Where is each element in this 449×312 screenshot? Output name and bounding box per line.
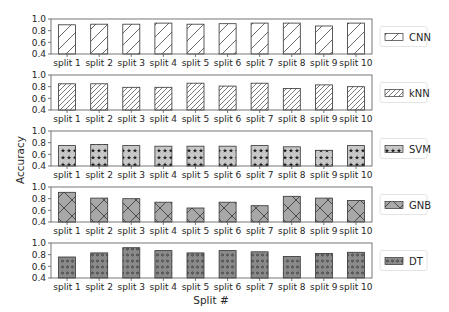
x-tick-label: split 6 [214, 226, 242, 236]
legend-label: CNN [409, 32, 431, 43]
legend-label: DT [409, 256, 424, 267]
y-tick-label: 0.8 [32, 194, 47, 204]
bar-dt-10 [347, 252, 364, 278]
bar-cnn-6 [219, 24, 236, 54]
bar-cnn-1 [59, 25, 76, 54]
legend-swatch [385, 146, 403, 153]
bar-cnn-10 [347, 23, 364, 54]
bar-cnn-4 [155, 23, 172, 54]
x-tick-label: split 5 [182, 282, 210, 292]
bar-knn-4 [155, 87, 172, 110]
x-tick-label: split 10 [339, 282, 373, 292]
bar-svm-3 [123, 146, 140, 166]
x-tick-label: split 6 [214, 170, 242, 180]
y-tick-label: 0.8 [32, 26, 47, 36]
x-tick-label: split 3 [117, 226, 145, 236]
subplot-knn: 0.40.60.81.0split 1split 2split 3split 4… [32, 70, 430, 124]
x-tick-label: split 10 [339, 114, 373, 124]
bar-svm-9 [315, 150, 332, 166]
bar-dt-4 [155, 251, 172, 278]
x-tick-label: split 1 [53, 170, 81, 180]
x-tick-label: split 9 [310, 170, 338, 180]
subplot-gnb: 0.40.60.81.0split 1split 2split 3split 4… [32, 182, 432, 236]
x-tick-label: split 6 [214, 282, 242, 292]
legend-knn: kNN [380, 83, 430, 103]
bar-knn-2 [91, 84, 108, 110]
x-tick-label: split 1 [53, 114, 81, 124]
bar-gnb-5 [187, 208, 204, 222]
x-tick-label: split 10 [339, 170, 373, 180]
x-tick-label: split 8 [278, 226, 306, 236]
bar-gnb-4 [155, 202, 172, 222]
legend-swatch [385, 90, 403, 97]
x-tick-label: split 4 [150, 58, 178, 68]
y-axis-label: Accuracy [14, 136, 26, 184]
bar-gnb-9 [315, 198, 332, 222]
bar-knn-7 [251, 83, 268, 110]
x-tick-label: split 2 [85, 226, 113, 236]
x-tick-label: split 8 [278, 58, 306, 68]
bar-gnb-7 [251, 206, 268, 222]
x-tick-label: split 3 [117, 58, 145, 68]
y-tick-label: 1.0 [32, 14, 47, 24]
subplot-cnn: 0.40.60.81.0split 1split 2split 3split 4… [32, 14, 431, 68]
bar-svm-8 [283, 147, 300, 166]
bar-svm-6 [219, 146, 236, 166]
x-tick-label: split 7 [246, 114, 274, 124]
subplots: 0.40.60.81.0split 1split 2split 3split 4… [32, 14, 432, 292]
x-tick-label: split 1 [53, 58, 81, 68]
bar-dt-3 [123, 248, 140, 278]
bar-gnb-10 [347, 200, 364, 222]
bar-dt-2 [91, 253, 108, 278]
bar-knn-9 [315, 85, 332, 110]
subplot-dt: 0.40.60.81.0split 1split 2split 3split 4… [32, 238, 427, 292]
x-tick-label: split 5 [182, 170, 210, 180]
x-tick-label: split 9 [310, 58, 338, 68]
x-tick-label: split 7 [246, 170, 274, 180]
x-tick-label: split 7 [246, 226, 274, 236]
x-tick-label: split 2 [85, 114, 113, 124]
y-tick-label: 0.8 [32, 138, 47, 148]
x-tick-label: split 10 [339, 226, 373, 236]
legend-svm: SVM [380, 139, 431, 159]
y-tick-label: 0.4 [32, 217, 47, 227]
bar-knn-8 [283, 88, 300, 110]
bar-cnn-9 [315, 26, 332, 54]
bar-cnn-3 [123, 24, 140, 54]
bar-cnn-5 [187, 24, 204, 54]
y-tick-label: 0.4 [32, 105, 47, 115]
x-tick-label: split 8 [278, 170, 306, 180]
y-tick-label: 0.6 [32, 206, 47, 216]
x-tick-label: split 4 [150, 170, 178, 180]
legend-swatch [385, 258, 403, 265]
x-tick-label: split 4 [150, 226, 178, 236]
x-tick-label: split 4 [150, 282, 178, 292]
legend-gnb: GNB [380, 195, 431, 215]
bar-dt-7 [251, 252, 268, 278]
x-tick-label: split 9 [310, 226, 338, 236]
x-tick-label: split 1 [53, 282, 81, 292]
figure: 0.40.60.81.0split 1split 2split 3split 4… [0, 0, 449, 312]
bar-knn-6 [219, 86, 236, 110]
x-tick-label: split 8 [278, 282, 306, 292]
bar-dt-1 [59, 257, 76, 278]
bar-svm-5 [187, 146, 204, 166]
y-tick-label: 0.8 [32, 250, 47, 260]
bar-dt-8 [283, 256, 300, 278]
bar-svm-10 [347, 146, 364, 166]
bar-knn-1 [59, 84, 76, 110]
x-tick-label: split 6 [214, 114, 242, 124]
bar-svm-1 [59, 146, 76, 166]
bar-knn-10 [347, 87, 364, 110]
bar-gnb-1 [59, 192, 76, 222]
y-tick-label: 0.6 [32, 38, 47, 48]
x-tick-label: split 9 [310, 114, 338, 124]
y-tick-label: 1.0 [32, 126, 47, 136]
legend-label: SVM [409, 144, 431, 155]
bar-dt-9 [315, 254, 332, 279]
legend-dt: DT [380, 251, 427, 271]
legend-label: kNN [409, 88, 430, 99]
x-tick-label: split 5 [182, 58, 210, 68]
bar-gnb-8 [283, 196, 300, 222]
bar-gnb-6 [219, 202, 236, 222]
